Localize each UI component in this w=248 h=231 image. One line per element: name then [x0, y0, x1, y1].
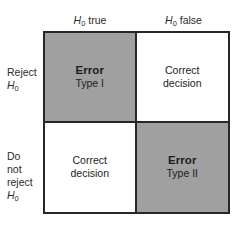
matrix-cell-type-i-error: Error Type I — [45, 33, 137, 123]
row-label-do-not-reject-h0: Do not reject H0 — [7, 150, 43, 203]
row-label-do-not-reject-h0-line-1: Do — [7, 150, 43, 163]
row-label-reject-h0-line-1: Reject — [7, 66, 43, 79]
column-header-h0-false-symbol: H0 — [165, 14, 177, 26]
decision-matrix-grid: Error Type I Correct decision Correct de… — [43, 31, 230, 214]
row-label-reject-h0-symbol: H0 — [7, 79, 43, 93]
hypothesis-test-decision-matrix-figure: H0 true H0 false Reject H0 Do not reject… — [0, 0, 248, 231]
column-header-h0-true-symbol: H0 — [74, 14, 86, 26]
row-label-do-not-reject-h0-line-2: not — [7, 163, 43, 176]
matrix-cell-type-ii-error: Error Type II — [137, 123, 229, 213]
matrix-cell-type-i-error-line-1: Error — [75, 64, 104, 77]
matrix-cell-correct-decision-no-reject-line-1: Correct — [73, 154, 107, 167]
row-label-do-not-reject-h0-line-3: reject — [7, 176, 43, 189]
matrix-cell-correct-decision-no-reject-line-2: decision — [70, 167, 109, 180]
column-header-h0-false-state: false — [180, 14, 202, 26]
matrix-cell-correct-decision-reject: Correct decision — [137, 33, 229, 123]
matrix-cell-correct-decision-reject-line-1: Correct — [165, 64, 199, 77]
matrix-cell-type-ii-error-line-1: Error — [168, 154, 197, 167]
matrix-cell-correct-decision-reject-line-2: decision — [163, 77, 202, 90]
column-header-h0-false: H0 false — [137, 13, 230, 27]
matrix-cell-type-i-error-line-2: Type I — [75, 77, 104, 90]
matrix-cell-correct-decision-no-reject: Correct decision — [45, 123, 137, 213]
row-label-reject-h0: Reject H0 — [7, 66, 43, 93]
column-header-h0-true: H0 true — [43, 13, 137, 27]
row-label-do-not-reject-h0-symbol: H0 — [7, 189, 43, 203]
matrix-cell-type-ii-error-line-2: Type II — [166, 167, 198, 180]
column-header-h0-true-state: true — [88, 14, 106, 26]
